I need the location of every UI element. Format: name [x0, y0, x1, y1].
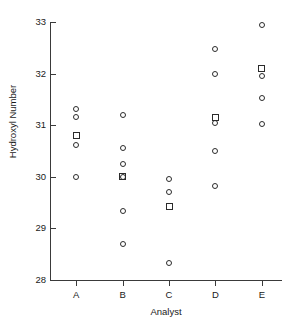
y-tick-label-wrap: 28 [14, 275, 46, 285]
x-tick-label-d: D [200, 290, 230, 300]
data-point-circle-c [166, 176, 172, 182]
x-tick-label-b: B [108, 290, 138, 300]
y-tick-label-wrap: 30 [14, 172, 46, 182]
data-point-circle-b [120, 112, 126, 118]
x-tick-label-e: E [247, 290, 277, 300]
x-tick-label-a: A [61, 290, 91, 300]
y-tick-label: 33 [20, 17, 46, 27]
y-tick-label: 31 [20, 120, 46, 130]
data-point-square-e [258, 65, 265, 72]
y-tick-label-wrap: 31 [14, 120, 46, 130]
y-tick-label: 28 [20, 275, 46, 285]
data-point-square-b [119, 173, 126, 180]
x-tick-mark [169, 280, 170, 286]
data-point-square-d [212, 114, 219, 121]
y-tick-mark [50, 228, 56, 229]
data-point-circle-a [73, 106, 79, 112]
y-tick-mark [50, 22, 56, 23]
y-tick-label: 29 [20, 223, 46, 233]
data-point-circle-a [73, 142, 79, 148]
x-axis-line [50, 280, 282, 281]
x-tick-mark [123, 280, 124, 286]
data-point-circle-e [259, 121, 265, 127]
data-point-circle-a [73, 174, 79, 180]
data-point-circle-d [212, 148, 218, 154]
data-point-circle-c [166, 189, 172, 195]
y-axis-line [50, 22, 51, 280]
data-point-circle-a [73, 114, 79, 120]
y-tick-label-wrap: 29 [14, 223, 46, 233]
data-point-circle-e [259, 22, 265, 28]
x-tick-mark [262, 280, 263, 286]
y-axis-title: Hydroxyl Number [7, 62, 18, 182]
data-point-circle-b [120, 145, 126, 151]
y-tick-label: 30 [20, 172, 46, 182]
data-point-square-a [73, 132, 80, 139]
data-point-circle-e [259, 95, 265, 101]
data-point-square-c [166, 203, 173, 210]
data-point-circle-b [120, 241, 126, 247]
data-point-circle-d [212, 46, 218, 52]
x-axis-title: Analyst [50, 306, 282, 317]
data-point-circle-c [166, 260, 172, 266]
y-tick-mark [50, 125, 56, 126]
x-tick-mark [76, 280, 77, 286]
y-tick-mark [50, 280, 56, 281]
x-tick-mark [215, 280, 216, 286]
y-tick-label: 32 [20, 69, 46, 79]
hydroxyl-number-dot-plot: 282930313233 ABCDE Hydroxyl Number Analy… [0, 0, 298, 334]
y-tick-mark [50, 177, 56, 178]
data-point-circle-b [120, 208, 126, 214]
data-point-circle-e [259, 73, 265, 79]
y-tick-label-wrap: 32 [14, 69, 46, 79]
data-point-circle-d [212, 71, 218, 77]
data-point-circle-b [120, 161, 126, 167]
y-tick-mark [50, 74, 56, 75]
data-point-circle-d [212, 183, 218, 189]
x-tick-label-c: C [154, 290, 184, 300]
y-tick-label-wrap: 33 [14, 17, 46, 27]
